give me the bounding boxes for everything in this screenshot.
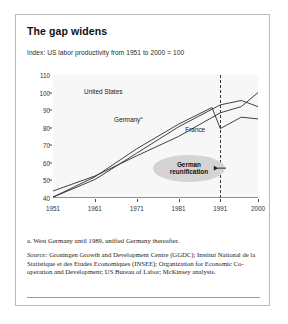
x-axis-tick-mark — [179, 199, 180, 202]
exhibit-page: The gap widens Index: US labor productiv… — [0, 0, 288, 324]
x-axis-tick-label: 2000 — [251, 205, 265, 212]
arrow-right-icon — [53, 75, 258, 198]
x-axis-tick-label: 1961 — [88, 205, 102, 212]
x-axis-tick-label: 1971 — [130, 205, 144, 212]
source-label: Source: — [27, 251, 48, 258]
x-axis-tick-mark — [258, 199, 259, 202]
exhibit-subtitle: Index: US labor productivity from 1951 t… — [27, 49, 184, 56]
y-axis-tick-label: 40 — [28, 195, 53, 202]
exhibit-title: The gap widens — [27, 25, 107, 37]
y-axis-tick-mark — [49, 180, 52, 181]
line-chart: 4050607080901001101951196119711981199120… — [27, 69, 260, 219]
y-axis-tick-label: 110 — [28, 72, 53, 79]
bottom-divider — [27, 297, 260, 298]
plot-area: 4050607080901001101951196119711981199120… — [53, 75, 258, 198]
x-axis-tick-label: 1951 — [46, 205, 60, 212]
y-axis-tick-mark — [49, 92, 52, 93]
y-axis-tick-mark — [49, 145, 52, 146]
x-axis-tick-label: 1981 — [171, 205, 185, 212]
x-axis-tick-mark — [220, 199, 221, 202]
exhibit-card: The gap widens Index: US labor productiv… — [15, 14, 270, 306]
x-axis-tick-label: 1991 — [213, 205, 227, 212]
y-axis-tick-mark — [49, 162, 52, 163]
x-axis-tick-mark — [137, 199, 138, 202]
y-axis-tick-mark — [49, 110, 52, 111]
x-axis-tick-mark — [95, 199, 96, 202]
source-text: Groningen Growth and Development Centre … — [27, 251, 255, 275]
y-axis-tick-mark — [49, 127, 52, 128]
footnote-a: a. West Germany until 1989, unified Germ… — [27, 237, 261, 244]
source-note: Source: Groningen Growth and Development… — [27, 251, 263, 277]
